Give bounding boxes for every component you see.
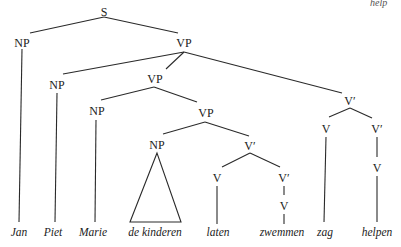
edge-vp3-vbar3 <box>205 122 249 136</box>
edge-vp1-vbar1 <box>184 52 342 93</box>
node-vbar-right: V′ <box>344 94 356 108</box>
edge-vbar1-vzag <box>329 108 350 117</box>
node-np-marie: NP <box>89 104 105 118</box>
edge-vbar3-vlaten <box>222 153 250 167</box>
node-vp-2: VP <box>147 72 163 86</box>
leaf-zag: zag <box>316 226 333 239</box>
edge-s-np1 <box>30 17 104 33</box>
edge-vp1-np2 <box>63 52 184 74</box>
edge-vzag-zag <box>324 137 326 222</box>
edge-vp2-vp3 <box>154 87 197 102</box>
leaf-piet: Piet <box>43 226 63 238</box>
node-vp-3: VP <box>198 106 214 120</box>
leaf-zwemmen: zwemmen <box>259 226 305 238</box>
node-v-zwemmen: V <box>280 199 289 213</box>
leaf-de-kinderen: de kinderen <box>128 226 182 238</box>
edge-np3-marie <box>95 120 96 222</box>
edge-s-vp1 <box>104 17 178 33</box>
leaf-helpen: helpen <box>362 226 393 239</box>
node-np-kinderen: NP <box>149 138 165 152</box>
node-np-jan: NP <box>14 36 30 50</box>
node-s: S <box>101 5 108 19</box>
leaf-jan: Jan <box>11 226 28 238</box>
edge-np1-jan <box>19 49 22 222</box>
node-vbar-zwemmen: V′ <box>278 171 290 185</box>
edge-vp3-np4 <box>163 122 205 134</box>
syntax-tree-diagram: help S NP VP NP VP V′ NP <box>0 0 401 247</box>
edge-vp2-np3 <box>101 87 154 100</box>
node-v-zag: V <box>322 122 331 136</box>
node-vp-top: VP <box>176 36 192 50</box>
node-vbar-mid: V′ <box>244 139 256 153</box>
node-v-laten: V <box>213 171 222 185</box>
edge-np2-piet <box>55 93 57 222</box>
corner-partial-text: help <box>370 0 387 8</box>
node-vbar-helpen: V′ <box>371 122 383 136</box>
tree-leaves: Jan Piet Marie de kinderen laten zwemmen… <box>11 226 393 239</box>
node-np-piet: NP <box>49 78 65 92</box>
edge-vbar1-vbar2 <box>350 108 372 118</box>
node-v-helpen: V <box>373 161 382 175</box>
triangle-np4 <box>130 153 181 222</box>
tree-edges <box>19 17 377 224</box>
leaf-laten: laten <box>207 226 230 238</box>
tree-nodes: S NP VP NP VP V′ NP VP V V′ NP V′ V V V′… <box>14 5 383 213</box>
edge-vbar3-vbar4 <box>250 153 280 167</box>
leaf-marie: Marie <box>78 226 107 238</box>
